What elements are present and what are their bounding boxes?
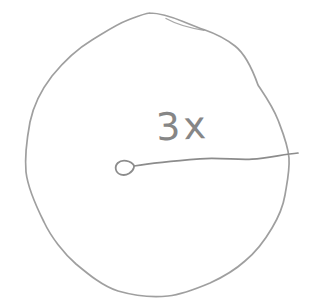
center-point-loop — [116, 161, 134, 175]
radius-label: 3x — [155, 103, 210, 150]
radius-line — [134, 153, 298, 166]
sketch-canvas: 3x — [0, 0, 312, 300]
circle-sketch-svg: 3x — [0, 0, 312, 300]
circle-outline — [26, 13, 290, 297]
